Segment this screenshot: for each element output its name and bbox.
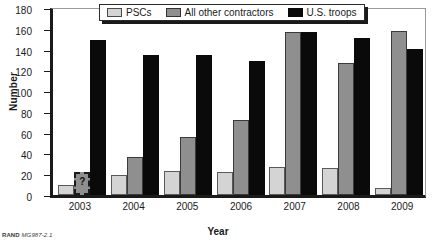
source-id: MG987-2.1 bbox=[22, 232, 53, 238]
y-tick-120: 120 bbox=[44, 71, 53, 72]
bar-other-2006 bbox=[233, 120, 249, 195]
bar-psc-2004 bbox=[111, 175, 127, 195]
bar-psc-2006 bbox=[217, 172, 233, 195]
bar-other-2003: ? bbox=[74, 172, 90, 195]
source-prefix: RAND bbox=[2, 232, 20, 238]
uncertainty-marker-2003: ? bbox=[76, 176, 88, 187]
chart-legend: PSCsAll other contractorsU.S. troops bbox=[99, 4, 365, 21]
y-tick-label-20: 20 bbox=[21, 171, 32, 182]
y-tick-label-80: 80 bbox=[21, 108, 32, 119]
y-tick-label-160: 160 bbox=[15, 25, 32, 36]
bar-troops-2006 bbox=[249, 61, 265, 195]
bar-psc-2005 bbox=[164, 171, 180, 195]
y-tick-40: 40 bbox=[44, 154, 53, 155]
legend-label-psc: PSCs bbox=[126, 7, 152, 18]
legend-swatch-psc bbox=[107, 8, 122, 17]
bar-troops-2009 bbox=[407, 49, 423, 195]
y-tick-label-120: 120 bbox=[15, 67, 32, 78]
bar-group-2007 bbox=[267, 9, 320, 195]
legend-swatch-troops bbox=[288, 8, 303, 17]
bar-chart: Number 020406080100120140160180 ? 200320… bbox=[0, 0, 436, 248]
bar-psc-2009 bbox=[375, 188, 391, 195]
y-tick-160: 160 bbox=[44, 30, 53, 31]
legend-item-troops: U.S. troops bbox=[288, 7, 357, 18]
x-tick-label-2003: 2003 bbox=[53, 201, 107, 212]
y-tick-label-140: 140 bbox=[15, 46, 32, 57]
bar-other-2007 bbox=[285, 32, 301, 195]
bar-other-2008 bbox=[338, 63, 354, 195]
y-tick-label-180: 180 bbox=[15, 5, 32, 16]
y-tick-0: 0 bbox=[44, 196, 53, 197]
bar-other-2009 bbox=[391, 31, 407, 195]
y-tick-100: 100 bbox=[44, 92, 53, 93]
x-tick-label-2007: 2007 bbox=[268, 201, 322, 212]
bar-group-2005 bbox=[161, 9, 214, 195]
y-tick-label-0: 0 bbox=[26, 192, 32, 203]
y-tick-label-100: 100 bbox=[15, 88, 32, 99]
y-tick-80: 80 bbox=[44, 113, 53, 114]
bar-psc-2007 bbox=[269, 167, 285, 195]
x-tick-label-2004: 2004 bbox=[107, 201, 161, 212]
y-tick-label-60: 60 bbox=[21, 129, 32, 140]
legend-swatch-other bbox=[166, 8, 181, 17]
y-tick-20: 20 bbox=[44, 175, 53, 176]
bar-psc-2008 bbox=[322, 168, 338, 195]
bar-psc-2003 bbox=[58, 185, 74, 195]
bar-troops-2003 bbox=[90, 40, 106, 195]
x-axis-tick-labels: 2003200420052006200720082009 bbox=[53, 201, 429, 212]
bar-other-2005 bbox=[180, 137, 196, 195]
x-axis-title: Year bbox=[0, 226, 436, 237]
bar-other-2004 bbox=[127, 157, 143, 195]
bar-group-2003: ? bbox=[56, 9, 109, 195]
y-tick-140: 140 bbox=[44, 51, 53, 52]
bar-troops-2004 bbox=[143, 55, 159, 195]
legend-item-psc: PSCs bbox=[107, 7, 152, 18]
x-tick-label-2008: 2008 bbox=[322, 201, 376, 212]
bar-troops-2008 bbox=[354, 38, 370, 195]
bar-group-2004 bbox=[109, 9, 162, 195]
bar-troops-2007 bbox=[301, 32, 317, 195]
bar-groups: ? bbox=[56, 9, 425, 195]
legend-label-other: All other contractors bbox=[185, 7, 274, 18]
plot-area: 020406080100120140160180 ? bbox=[50, 8, 426, 198]
legend-item-other: All other contractors bbox=[166, 7, 274, 18]
y-tick-180: 180 bbox=[44, 9, 53, 10]
x-tick-label-2006: 2006 bbox=[214, 201, 268, 212]
y-tick-label-40: 40 bbox=[21, 150, 32, 161]
source-note: RAND MG987-2.1 bbox=[2, 232, 52, 238]
x-tick-label-2009: 2009 bbox=[375, 201, 429, 212]
bar-group-2008 bbox=[320, 9, 373, 195]
y-tick-60: 60 bbox=[44, 134, 53, 135]
bar-group-2006 bbox=[214, 9, 267, 195]
bar-troops-2005 bbox=[196, 55, 212, 195]
x-tick-label-2005: 2005 bbox=[160, 201, 214, 212]
bar-group-2009 bbox=[372, 9, 425, 195]
legend-label-troops: U.S. troops bbox=[307, 7, 357, 18]
